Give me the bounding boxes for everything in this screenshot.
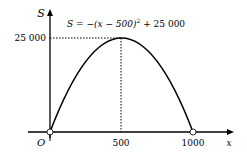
- equation-prefix: S = −(x − 500): [67, 19, 137, 29]
- origin-label: O: [37, 137, 45, 148]
- parabola-curve: [50, 38, 193, 132]
- axis-label-x: x: [226, 138, 231, 148]
- tick-label-y-25000: 25 000: [15, 33, 47, 43]
- parabola-chart: 25 000 500 1000 S x O S = −(x − 500)2 + …: [0, 0, 247, 159]
- open-point-1000: [190, 129, 196, 135]
- tick-label-x-1000: 1000: [182, 138, 205, 148]
- tick-label-x-500: 500: [112, 138, 129, 148]
- equation-suffix: + 25 000: [140, 19, 185, 29]
- equation-label: S = −(x − 500)2 + 25 000: [67, 17, 185, 29]
- axis-label-y: S: [37, 7, 45, 20]
- x-axis-arrow-icon: [227, 129, 234, 135]
- y-axis-arrow-icon: [47, 9, 53, 16]
